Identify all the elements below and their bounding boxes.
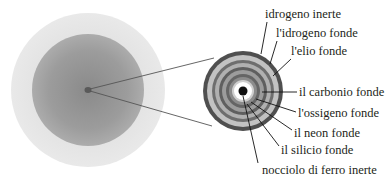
label-elio-fonde: l'elio fonde <box>291 45 347 58</box>
label-ossigeno-fonde: l'ossigeno fonde <box>298 107 379 120</box>
stellar-onion-diagram: idrogeno inerte l'idrogeno fonde l'elio … <box>0 0 392 185</box>
leader-idrogeno-fonde <box>270 41 277 64</box>
label-idrogeno-inerte: idrogeno inerte <box>265 8 341 21</box>
label-nocciolo-ferro-inerte: nocciolo di ferro inerte <box>262 164 377 177</box>
leader-elio-fonde <box>273 59 291 76</box>
label-carbonio-fonde: il carbonio fonde <box>299 86 384 99</box>
leader-idrogeno-inerte <box>261 22 267 54</box>
star-core-marker <box>85 87 92 93</box>
label-neon-fonde: il neon fonde <box>294 127 360 140</box>
label-silicio-fonde: il silicio fonde <box>281 144 353 157</box>
iron-core <box>239 87 248 96</box>
shell-rings <box>203 51 283 131</box>
label-idrogeno-fonde: l'idrogeno fonde <box>276 27 358 40</box>
